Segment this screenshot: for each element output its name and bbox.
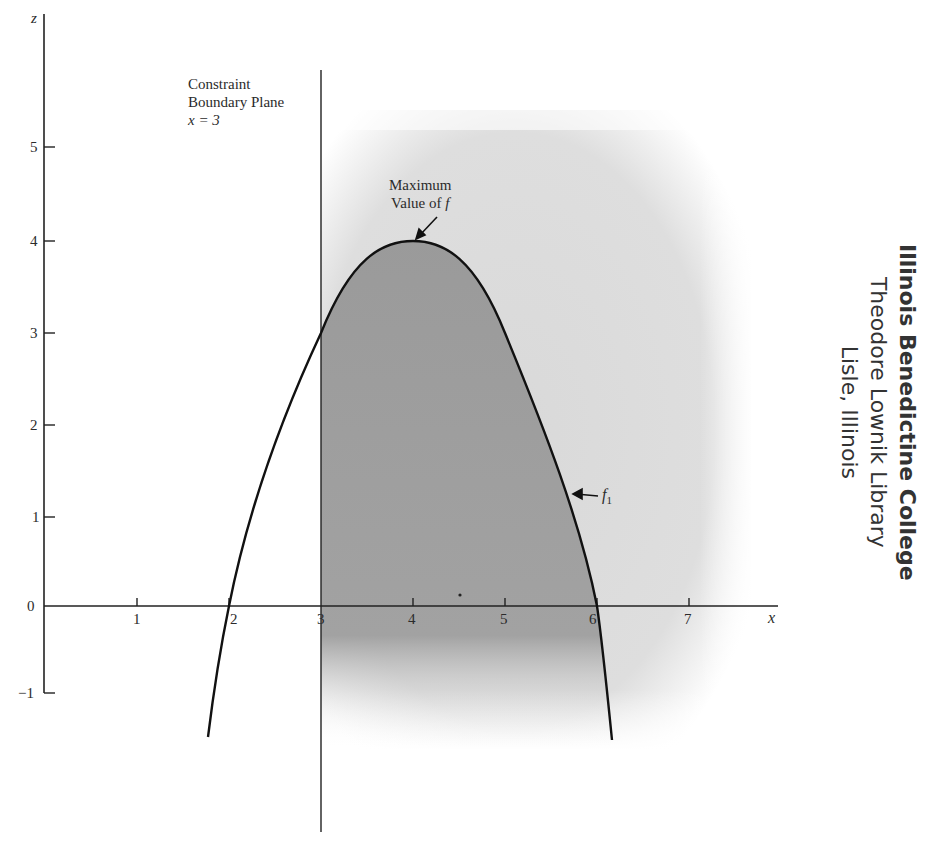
z-tick-label: −1 — [18, 684, 34, 702]
max-label-text: Value of — [391, 195, 445, 211]
max-annotation: Maximum Value of f — [389, 176, 452, 212]
curve-f1-label: f1 — [602, 486, 612, 509]
z-tick-label: 2 — [30, 416, 38, 434]
z-tick-label: 5 — [30, 138, 38, 156]
constraint-equation: x = 3 — [188, 111, 284, 129]
max-label-f: f — [445, 195, 449, 211]
curve-f-subscript: 1 — [606, 494, 612, 506]
z-tick-label: 1 — [32, 508, 40, 526]
library-stamp: Illinois Benedictine College Theodore Lo… — [835, 244, 922, 581]
constraint-label-line2: Boundary Plane — [188, 93, 284, 111]
stray-dot — [458, 593, 461, 596]
max-label-line2: Value of f — [389, 194, 452, 212]
x-tick-label: 1 — [133, 610, 141, 628]
constraint-label-line1: Constraint — [188, 75, 284, 93]
z-tick-label: 4 — [30, 232, 38, 250]
x-tick-label: 6 — [589, 610, 597, 628]
stamp-line2: Theodore Lownik Library — [864, 244, 893, 581]
stamp-line3: Lisle, Illinois — [835, 244, 864, 581]
plot-area — [0, 0, 939, 845]
x-tick-label: 2 — [230, 610, 238, 628]
z-axis-label: z — [31, 9, 37, 27]
stamp-line1: Illinois Benedictine College — [893, 244, 922, 581]
z-tick-label: 0 — [27, 597, 35, 615]
constraint-annotation: Constraint Boundary Plane x = 3 — [188, 75, 284, 129]
x-tick-label: 7 — [684, 610, 692, 628]
x-tick-label: 5 — [500, 610, 508, 628]
z-ticks — [44, 147, 55, 693]
x-tick-label: 3 — [317, 610, 325, 628]
z-tick-label: 3 — [30, 324, 38, 342]
x-axis-label: x — [768, 609, 775, 627]
x-tick-label: 4 — [408, 610, 416, 628]
max-label-line1: Maximum — [389, 176, 452, 194]
